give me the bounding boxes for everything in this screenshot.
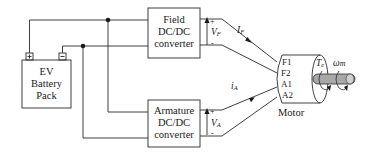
field-line-2: DC/DC bbox=[148, 26, 200, 38]
va-minus: - bbox=[211, 130, 214, 138]
battery-line-2: Battery bbox=[22, 78, 71, 90]
terminal-a2: A2 bbox=[282, 91, 293, 100]
field-line-3: converter bbox=[148, 38, 200, 50]
terminal-f2: F2 bbox=[281, 69, 291, 78]
armature-converter-label: Armature DC/DC converter bbox=[148, 105, 200, 141]
armature-line-2: DC/DC bbox=[148, 117, 200, 129]
vf-arrowhead bbox=[205, 17, 210, 23]
vf-plus: + bbox=[210, 18, 215, 26]
speed-label: ωm bbox=[333, 59, 346, 69]
va-arrowhead bbox=[205, 108, 210, 114]
ia-label: iA bbox=[231, 82, 238, 92]
if-label: IF bbox=[237, 26, 244, 36]
field-converter-label: Field DC/DC converter bbox=[148, 14, 200, 50]
va-plus: + bbox=[210, 108, 215, 116]
armature-line-3: converter bbox=[148, 129, 200, 141]
terminal-a1: A1 bbox=[281, 80, 292, 89]
junction-dot bbox=[81, 44, 86, 49]
vf-minus: - bbox=[211, 40, 214, 48]
battery-line-1: EV bbox=[22, 66, 71, 78]
vf-label: VF bbox=[211, 28, 221, 38]
field-line-1: Field bbox=[148, 14, 200, 26]
torque-label: Te bbox=[316, 59, 324, 69]
junction-dot bbox=[106, 18, 111, 23]
battery-label: EV Battery Pack bbox=[22, 66, 71, 102]
battery-line-3: Pack bbox=[22, 90, 71, 102]
terminal-f1: F1 bbox=[282, 58, 292, 67]
va-label: VA bbox=[211, 119, 221, 129]
armature-line-1: Armature bbox=[148, 105, 200, 117]
motor-label: Motor bbox=[278, 108, 304, 119]
